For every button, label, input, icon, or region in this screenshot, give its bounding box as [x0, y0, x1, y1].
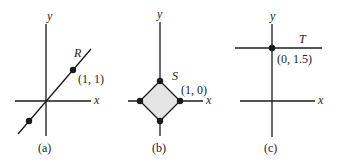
point-1-1 — [70, 67, 76, 73]
x-axis-label: x — [317, 93, 324, 107]
caption: (c) — [264, 141, 277, 155]
y-axis-label: y — [269, 9, 276, 23]
panel-b: y x S (1, 0) (b) — [128, 7, 212, 155]
vertex-left — [137, 98, 143, 104]
point-label: (1, 1) — [78, 72, 104, 86]
caption: (b) — [152, 141, 166, 155]
point-label: (1, 0) — [181, 83, 207, 97]
vertex-top — [157, 78, 163, 84]
x-axis-label: x — [93, 93, 100, 107]
vertex-bottom — [157, 118, 163, 124]
point-neg1-neg1 — [26, 118, 32, 124]
region-label: R — [73, 46, 82, 60]
region-s — [140, 81, 180, 121]
region-label: T — [299, 32, 307, 46]
y-axis-label: y — [156, 7, 163, 21]
y-axis-label: y — [46, 9, 53, 23]
panel-a: y x R (1, 1) (a) — [15, 9, 104, 155]
point-0-1-5 — [269, 45, 275, 51]
figure-canvas: y x R (1, 1) (a) y x S (1, 0) (b) y x T … — [0, 0, 338, 167]
region-label: S — [172, 69, 178, 83]
vertex-right — [177, 98, 183, 104]
caption: (a) — [38, 141, 51, 155]
point-label: (0, 1.5) — [277, 52, 312, 66]
panel-c: y x T (0, 1.5) (c) — [235, 9, 324, 155]
